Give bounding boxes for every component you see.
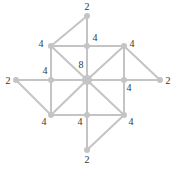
node-tl <box>48 43 54 49</box>
node-label-br: 4 <box>129 116 134 127</box>
node-label-bl: 4 <box>42 116 47 127</box>
node-label-bottom: 2 <box>85 154 90 165</box>
edge-tr-right <box>124 46 160 80</box>
node-label-right: 2 <box>166 75 171 86</box>
node-right <box>157 77 163 83</box>
edge-br-bottom <box>87 115 124 150</box>
node-center <box>82 75 92 85</box>
node-tm <box>84 43 90 49</box>
edge-left-bl <box>16 80 51 115</box>
node-lm <box>48 77 54 83</box>
node-bm <box>84 112 90 118</box>
node-label-top: 2 <box>85 1 90 12</box>
node-label-lm: 4 <box>43 65 48 76</box>
node-label-tl: 4 <box>39 38 44 49</box>
edge-bl-center <box>51 80 87 115</box>
node-label-rm: 4 <box>127 82 132 93</box>
node-bottom <box>84 147 90 153</box>
graph-diagram: 2444248424442 <box>0 0 177 180</box>
node-tr <box>121 43 127 49</box>
edge-top-tl <box>51 16 87 46</box>
node-label-tm: 4 <box>93 32 98 43</box>
edge-tr-center <box>87 46 124 80</box>
edge-br-center <box>87 80 124 115</box>
node-bl <box>48 112 54 118</box>
node-left <box>13 77 19 83</box>
node-label-tr: 4 <box>130 38 135 49</box>
node-label-bm: 4 <box>78 116 83 127</box>
node-br <box>121 112 127 118</box>
node-top <box>84 13 90 19</box>
node-label-left: 2 <box>6 75 11 86</box>
node-label-center: 8 <box>79 59 84 70</box>
